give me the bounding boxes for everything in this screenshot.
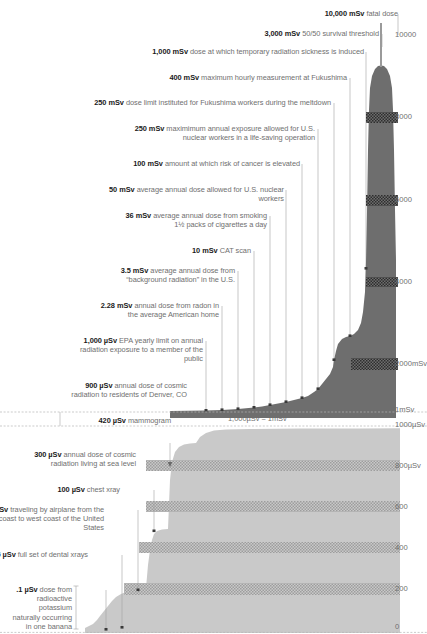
upper-band-2000: [351, 358, 398, 370]
dose-label-background-radiation: 3.5 mSv average annual dose from “backgr…: [110, 266, 235, 284]
dose-amount-nuclear-life-saving: 250 mSv: [135, 124, 165, 133]
dose-desc-chest-xray: chest xray: [85, 485, 120, 494]
dose-label-dental-xrays: 5 µSv full set of dental xrays: [0, 550, 88, 559]
dose-amount-cat-scan: 10 mSv: [192, 246, 218, 255]
axis-tick-200: 200: [395, 584, 408, 593]
dose-amount-banana: .1 µSv: [16, 585, 37, 594]
dose-amount-radon-home: 2.28 mSv: [101, 301, 133, 310]
dose-desc-dental-xrays: full set of dental xrays: [16, 550, 88, 559]
dose-desc-fukushima-hourly-max: maximum hourly measurement at Fukushima: [199, 73, 347, 82]
dose-label-fukushima-worker-limit: 250 mSv dose limit instituted for Fukush…: [91, 98, 331, 107]
dose-amount-dental-xrays: 5 µSv: [0, 550, 16, 559]
dose-desc-sea-level-cosmic: annual dose of cosmic radiation living a…: [51, 450, 136, 468]
dose-label-chest-xray: 100 µSv chest xray: [0, 485, 120, 494]
dose-amount-fatal-dose: 10,000 mSv: [325, 9, 365, 18]
unit-equivalence-caption: 1,000µSv = 1mSv: [228, 414, 287, 423]
axis-tick-6000: 6000: [395, 195, 412, 204]
dose-desc-airplane-coast-to-coast: traveling by airplane from the east coas…: [0, 505, 104, 532]
lower-band-600: [146, 501, 400, 512]
lower-band-800: [146, 460, 400, 471]
infographic-root: 10000 8000 6000 4000 2000mSv 1mSv 1000µS…: [0, 0, 427, 634]
upper-band-6000: [366, 195, 398, 206]
dose-amount-mammogram: 420 µSv: [99, 416, 126, 425]
dose-amount-cancer-risk-elevated: 100 mSv: [133, 159, 163, 168]
dose-amount-background-radiation: 3.5 mSv: [121, 266, 149, 275]
dose-desc-cat-scan: CAT scan: [218, 246, 251, 255]
axis-tick-4000: 4000: [395, 277, 412, 286]
dose-label-fukushima-hourly-max: 400 mSv maximum hourly measurement at Fu…: [147, 73, 347, 82]
axis-tick-600: 600: [395, 502, 408, 511]
dose-label-radon-home: 2.28 mSv annual dose from radon in the a…: [94, 301, 219, 319]
axis-tick-0: 0: [395, 622, 399, 631]
dose-label-radiation-sickness: 1,000 mSv dose at which temporary radiat…: [149, 47, 364, 56]
axis-tick-2000msv: 2000mSv: [395, 359, 427, 368]
dose-desc-nuclear-life-saving: maximimum annual exposure allowed for U.…: [164, 124, 315, 142]
dose-desc-fukushima-worker-limit: dose limit instituted for Fukushima work…: [124, 98, 331, 107]
dose-amount-radiation-sickness: 1,000 mSv: [152, 47, 188, 56]
dose-amount-denver-cosmic: 900 µSv: [85, 381, 112, 390]
axis-tick-8000: 8000: [395, 112, 412, 121]
dose-desc-radiation-sickness: dose at which temporary radiation sickne…: [188, 47, 364, 56]
dose-label-sea-level-cosmic: 300 µSv annual dose of cosmic radiation …: [11, 450, 136, 468]
dose-desc-mammogram: mammogram: [126, 416, 171, 425]
dose-label-survival-threshold: 3,000 mSv 50/50 survival threshold: [119, 29, 379, 38]
dose-label-nuclear-worker-annual: 50 mSv average annual dose allowed for U…: [109, 185, 284, 203]
dose-label-mammogram: 420 µSv mammogram: [21, 416, 171, 425]
dose-amount-epa-yearly-limit: 1,000 µSv: [84, 336, 117, 345]
lower-band-400: [139, 542, 400, 553]
dose-amount-chest-xray: 100 µSv: [57, 485, 84, 494]
dose-desc-nuclear-worker-annual: average annual dose allowed for U.S. nuc…: [135, 185, 284, 203]
axis-tick-1msv: 1mSv: [395, 405, 414, 414]
dose-label-cancer-risk-elevated: 100 mSv amount at which risk of cancer i…: [125, 159, 300, 168]
dose-amount-nuclear-worker-annual: 50 mSv: [109, 185, 135, 194]
dose-label-epa-yearly-limit: 1,000 µSv EPA yearly limit on annual rad…: [73, 336, 203, 364]
axis-tick-400: 400: [395, 543, 408, 552]
dose-desc-survival-threshold: 50/50 survival threshold: [300, 29, 379, 38]
dose-label-cat-scan: 10 mSv CAT scan: [91, 246, 251, 255]
dose-label-airplane-coast-to-coast: 35 µSv traveling by airplane from the ea…: [0, 505, 104, 533]
dose-label-nuclear-life-saving: 250 mSv maximimum annual exposure allowe…: [125, 124, 315, 142]
lower-band-200: [124, 583, 400, 595]
dose-desc-fatal-dose: fatal dose: [364, 9, 398, 18]
dose-amount-smoking-annual: 36 mSv: [126, 211, 152, 220]
axis-tick-1000usv: 1000µSv: [395, 420, 425, 429]
dose-desc-smoking-annual: average annual dose from smoking 1½ pack…: [151, 211, 267, 229]
upper-band-8000: [366, 112, 398, 123]
dose-desc-cancer-risk-elevated: amount at which risk of cancer is elevat…: [163, 159, 300, 168]
dose-amount-sea-level-cosmic: 300 µSv: [34, 450, 61, 459]
dose-desc-radon-home: annual dose from radon in the average Am…: [128, 301, 219, 319]
axis-tick-10000: 10000: [395, 30, 416, 39]
axis-tick-800usv: 800µSv: [395, 461, 421, 470]
upper-band-4000: [366, 277, 398, 287]
dose-label-smoking-annual: 36 mSv average annual dose from smoking …: [122, 211, 267, 229]
dose-amount-survival-threshold: 3,000 mSv: [264, 29, 300, 38]
upper-plume-stem: [380, 23, 382, 67]
dose-label-banana: .1 µSv dose from radioactive potassium n…: [10, 585, 72, 631]
dose-amount-airplane-coast-to-coast: 35 µSv: [0, 505, 8, 514]
dose-label-denver-cosmic: 900 µSv annual dose of cosmic radiation …: [62, 381, 187, 399]
dose-amount-fukushima-worker-limit: 250 mSv: [94, 98, 124, 107]
dose-label-fatal-dose: 10,000 mSv fatal dose: [138, 9, 398, 18]
dose-amount-fukushima-hourly-max: 400 mSv: [169, 73, 199, 82]
